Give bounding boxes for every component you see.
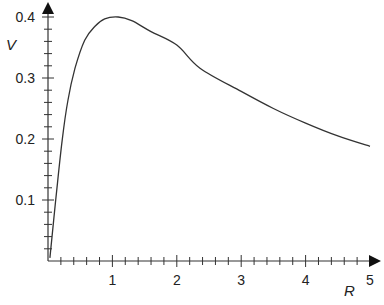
x-tick-label: 1 xyxy=(109,272,117,288)
y-tick-label: 0.3 xyxy=(16,70,36,86)
y-axis-arrow-icon xyxy=(42,2,54,14)
x-axis-title: R xyxy=(344,282,355,299)
x-tick-label: 4 xyxy=(302,272,310,288)
x-axis-arrow-icon xyxy=(369,255,381,267)
y-axis-title: V xyxy=(6,36,18,53)
axis-ticks xyxy=(42,17,357,267)
x-tick-label: 2 xyxy=(173,272,181,288)
y-tick-labels: 0.10.20.30.4 xyxy=(16,9,36,208)
y-tick-label: 0.2 xyxy=(16,131,36,147)
y-tick-label: 0.4 xyxy=(16,9,36,25)
data-line xyxy=(50,17,370,258)
y-tick-label: 0.1 xyxy=(16,192,36,208)
x-tick-labels: 12345 xyxy=(109,272,375,288)
chart: 12345 0.10.20.30.4 V R xyxy=(0,0,384,305)
x-tick-label: 3 xyxy=(237,272,245,288)
x-tick-label: 5 xyxy=(366,272,374,288)
